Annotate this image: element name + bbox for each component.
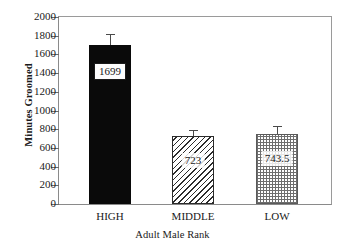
y-tick-label: 400 xyxy=(16,159,56,174)
error-bar-cap-low xyxy=(273,126,282,127)
y-tick-label: 1800 xyxy=(16,28,56,43)
y-tick-label: 1000 xyxy=(16,103,56,118)
y-tick-label: 1400 xyxy=(16,65,56,80)
plot-inner: 2000180016001400120010008006004002000169… xyxy=(59,17,331,204)
y-tick-label: 2000 xyxy=(16,9,56,24)
y-tick-label: 800 xyxy=(16,121,56,136)
x-tick-label-high: HIGH xyxy=(96,209,124,223)
x-axis-title: Adult Male Rank xyxy=(0,228,345,241)
error-bar-low xyxy=(277,126,278,135)
error-bar-high xyxy=(110,34,111,45)
bar-middle xyxy=(172,136,214,204)
x-tick-label-low: LOW xyxy=(264,209,289,223)
error-bar-cap-middle xyxy=(189,130,198,131)
value-label-low: 743.5 xyxy=(262,151,293,166)
error-bar-cap-high xyxy=(106,34,115,35)
bar-low xyxy=(256,134,298,204)
bar-chart: Minutes Groomed 200018001600140012001000… xyxy=(0,0,345,247)
x-tick-label-middle: MIDDLE xyxy=(172,209,215,223)
y-tick-label: 200 xyxy=(16,177,56,192)
y-tick-label: 600 xyxy=(16,140,56,155)
y-tick-label: 1200 xyxy=(16,84,56,99)
value-label-high: 1699 xyxy=(94,63,126,80)
y-tick-label: 0 xyxy=(16,196,56,211)
plot-area: 2000180016001400120010008006004002000169… xyxy=(58,16,332,205)
y-tick-label: 1600 xyxy=(16,46,56,61)
value-label-middle: 723 xyxy=(182,153,205,168)
